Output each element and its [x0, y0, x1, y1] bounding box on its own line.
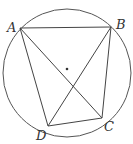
- segment-cd: [48, 118, 102, 126]
- geometry-diagram: A B C D: [0, 0, 133, 144]
- diagonal-bd: [48, 27, 111, 126]
- diagonal-ac: [20, 28, 102, 118]
- segment-bc: [102, 27, 111, 118]
- label-a: A: [6, 20, 16, 35]
- label-d: D: [35, 128, 47, 143]
- center-point: [66, 68, 69, 71]
- label-b: B: [115, 17, 126, 32]
- label-c: C: [104, 119, 114, 134]
- segment-ab: [20, 27, 111, 28]
